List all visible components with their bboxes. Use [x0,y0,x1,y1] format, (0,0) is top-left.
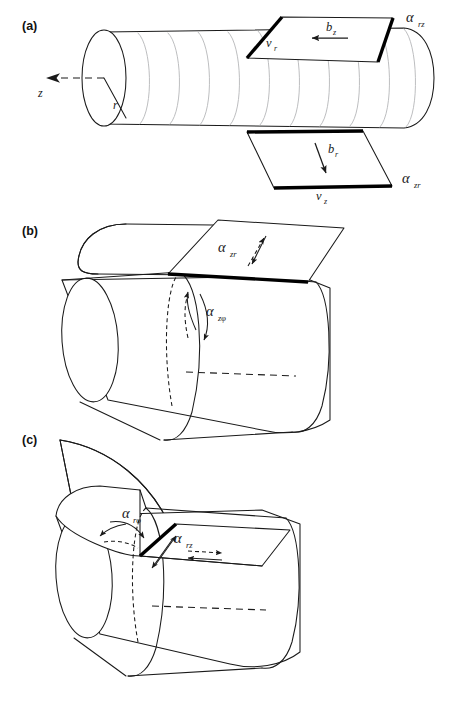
cylinder-b-bottom-edge-right [164,432,292,440]
bottom-plane-bottom-thick-edge [274,186,392,188]
b-z-symbol: b [326,20,332,34]
panel-b-tag: (b) [22,224,38,238]
alpha-zr-subscript-b: zr [229,249,237,259]
alpha-rphi-symbol: α [122,505,130,521]
cylinder-c-bottom-edge-left [74,638,126,676]
b-r-symbol: b [328,142,334,156]
alpha-rz-symbol-c: α [174,530,182,546]
alpha-rz-subscript-c: rz [186,540,193,550]
panel-c: (c) [22,433,300,676]
bottom-plane-top-thick-edge [247,131,363,132]
panel-b: (b) [22,220,344,440]
panel-c-tag: (c) [22,433,37,447]
bottom-plane-face [247,131,392,188]
z-axis-label: z [37,86,43,100]
panel-a: (a) [22,9,434,206]
alpha-rz-symbol: α [406,9,414,25]
alpha-rz-subscript: rz [418,19,425,29]
v-z-symbol: v [316,189,322,203]
r-radius-label: r [113,98,118,112]
alpha-rphi-subscript: rφ [133,515,141,525]
cylinder-c-bottom-edge-right [128,668,262,676]
figure-canvas: (a) [0,0,466,703]
z-axis-arrowhead-icon [46,73,60,83]
panel-a-bottom-plane [247,131,392,188]
v-r-symbol: v [266,36,272,50]
alpha-zr-subscript: zr [413,180,421,190]
v-z-subscript: z [323,197,328,206]
panel-b-cylinder [58,272,330,440]
alpha-zphi-subscript: zφ [217,313,226,323]
panel-c-cylinder [52,486,300,676]
alpha-zr-symbol: α [402,170,410,186]
panel-a-tag: (a) [22,19,37,33]
alpha-zphi-symbol: α [206,303,214,319]
alpha-zr-symbol-b: α [218,239,226,255]
